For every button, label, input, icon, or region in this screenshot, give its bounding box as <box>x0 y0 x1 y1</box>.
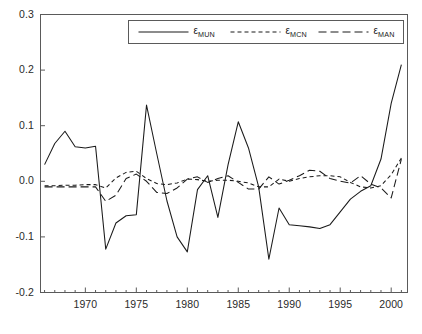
legend-label-subscript: MAN <box>378 30 395 39</box>
line-chart-canvas <box>0 0 422 334</box>
y-axis-tick-label: -0.2 <box>0 286 34 298</box>
legend-label-mcn: εMCN <box>286 25 307 39</box>
chart-figure: 0.30.20.10.0-0.1-0.219701975198019851990… <box>0 0 422 334</box>
plot-frame <box>41 15 408 293</box>
x-axis-tick-label: 1970 <box>65 298 105 310</box>
y-axis-tick-label: 0.0 <box>0 174 34 186</box>
y-axis-tick-label: 0.2 <box>0 63 34 75</box>
legend-label-subscript: MUN <box>198 30 215 39</box>
x-axis-tick-label: 1990 <box>269 298 309 310</box>
x-axis-tick-label: 1975 <box>116 298 156 310</box>
legend-label-mun: εMUN <box>194 25 215 39</box>
x-axis-tick-label: 1985 <box>218 298 258 310</box>
y-axis-tick-label: 0.1 <box>0 119 34 131</box>
series-line-mun <box>45 65 402 260</box>
y-axis-tick-label: 0.3 <box>0 8 34 20</box>
x-axis-tick-label: 1995 <box>320 298 360 310</box>
x-axis-tick-label: 1980 <box>167 298 207 310</box>
legend-label-man: εMAN <box>374 25 395 39</box>
legend-label-subscript: MCN <box>290 30 307 39</box>
y-axis-tick-label: -0.1 <box>0 230 34 242</box>
x-axis-tick-label: 2000 <box>371 298 411 310</box>
